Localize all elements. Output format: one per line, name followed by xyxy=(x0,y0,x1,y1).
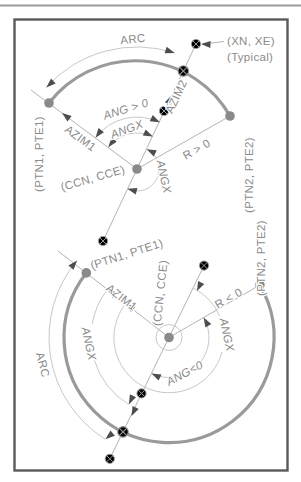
figure-canvas: ARC (XN, XE) (Typical) ANG > 0 ANGX AZIM… xyxy=(0,0,301,482)
x-point-marker xyxy=(199,261,208,270)
axis-direction-arrow xyxy=(128,406,138,418)
arc-dim-arrow-end xyxy=(103,431,115,442)
label-azim1: AZIM1 xyxy=(104,282,139,313)
label-angx-left: ANGX xyxy=(79,325,98,363)
label-angx-right: ANGX xyxy=(217,316,236,354)
azim1-arrow xyxy=(60,110,72,121)
xnxe-leader-arrow xyxy=(201,41,211,48)
top-diagram: ARC (XN, XE) (Typical) ANG > 0 ANGX AZIM… xyxy=(31,32,275,246)
label-xn-xe: (XN, XE) xyxy=(227,35,275,47)
label-arc: ARC xyxy=(120,32,146,47)
x-point-marker xyxy=(191,39,200,48)
label-r-negative: R < 0 xyxy=(213,286,244,311)
arc-dim-arrow-end xyxy=(165,47,176,56)
x-point-marker-on-arc xyxy=(178,66,189,77)
radius-line-r xyxy=(169,285,260,338)
arc-dimension-arc xyxy=(46,47,174,87)
label-ptn1: (PTN1, PTE1) xyxy=(33,116,45,192)
point-center xyxy=(132,164,142,174)
x-point-marker xyxy=(137,389,146,398)
ang-neg-arrow-end xyxy=(201,316,212,328)
label-center-ccn: (CCN, CCE) xyxy=(151,259,170,326)
label-arc: ARC xyxy=(34,351,52,378)
angx-arrow-end xyxy=(143,129,155,139)
point-center xyxy=(164,333,174,343)
label-ptn2: (PTN2, PTE2) xyxy=(255,220,267,296)
angx-left-arc-b xyxy=(94,360,128,404)
label-angx-upper: ANGX xyxy=(108,117,146,141)
angx-left-arc-a xyxy=(92,290,107,324)
x-point-marker-on-arc xyxy=(118,427,129,438)
label-typical: (Typical) xyxy=(227,51,273,63)
label-ptn2: (PTN2, PTE2) xyxy=(243,137,255,213)
point-ptn2 xyxy=(225,111,235,121)
radius-line-r xyxy=(137,116,230,169)
arc-geometry-diagram: ARC (XN, XE) (Typical) ANG > 0 ANGX AZIM… xyxy=(0,0,301,482)
x-point-marker xyxy=(98,236,107,245)
label-center-ccn: (CCN, CCE) xyxy=(59,163,126,193)
bottom-diagram: (PTN1, PTE1) AZIM1 (CCN, CCE) R < 0 ANGX… xyxy=(34,220,274,463)
point-ptn1 xyxy=(44,98,54,108)
label-r-positive: R > 0 xyxy=(181,137,212,162)
angx-left-arrow-end xyxy=(126,394,136,406)
label-azim2: AZIM2 xyxy=(163,78,189,115)
point-ptn1 xyxy=(82,268,92,278)
x-point-marker xyxy=(105,454,114,463)
